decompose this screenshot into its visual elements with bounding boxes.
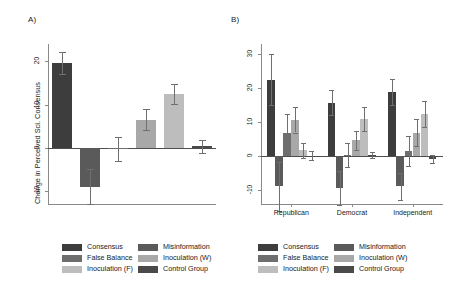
error-bar-cap [293,133,298,134]
legend-swatch-b [334,244,354,251]
error-bar-cap [143,109,150,110]
y-tick-panel-b [258,54,261,55]
error-bar-cap [171,84,178,85]
error-bar [174,84,175,104]
legend-label-b: False Balance [283,254,329,262]
legend-label-a: Consensus [87,243,133,251]
error-bar [364,107,365,132]
y-tick-label-panel-a: 20 [33,51,40,71]
y-tick-panel-a [45,105,48,106]
y-tick-label-panel-a: -10 [33,181,40,201]
legend-swatch-b [258,244,278,251]
legend-swatch-b [258,255,278,262]
error-bar-cap [430,163,435,164]
y-tick-panel-b [258,122,261,123]
legend-panel-a: ConsensusMisinformationFalse BalanceInoc… [62,243,211,273]
error-bar-cap [337,205,342,206]
error-bar-cap [285,152,290,153]
error-bar-cap [414,146,419,147]
error-bar-cap [430,155,435,156]
legend-label-b: Inoculation (W) [359,254,407,262]
error-bar-cap [309,160,314,161]
error-bar [332,90,333,115]
y-tick-panel-a [45,191,48,192]
figure-root: A) Change in Perceived Sci. Consensus 20… [0,0,453,298]
y-tick-label-panel-b: 20 [246,78,253,98]
y-tick-panel-a [45,61,48,62]
error-bar [409,136,410,166]
legend-swatch-a [62,244,82,251]
error-bar-cap [87,204,94,205]
error-bar-cap [59,52,66,53]
error-bar-cap [285,114,290,115]
error-bar [433,155,434,164]
error-bar-cap [390,79,395,80]
error-bar-cap [422,127,427,128]
error-bar-cap [269,105,274,106]
error-bar [372,152,373,159]
legend-swatch-b [334,255,354,262]
zero-line-panel-b [261,156,443,157]
error-bar-cap [354,131,359,132]
error-bar-cap [143,130,150,131]
error-bar [425,101,426,127]
legend-label-a: False Balance [87,254,133,262]
legend-label-b: Control Group [359,265,407,273]
error-bar-cap [362,131,367,132]
legend-label-b: Misinformation [359,243,407,251]
error-bar [312,151,313,161]
error-bar-cap [362,107,367,108]
error-bar-cap [422,101,427,102]
panel-b-letter: B) [231,15,239,24]
x-tick-label-panel-b: Republican [261,209,321,216]
error-bar [417,119,418,147]
legend-label-a: Control Group [163,265,211,273]
y-axis-line-panel-b [261,44,262,204]
error-bar-cap [171,104,178,105]
legend-swatch-b [334,266,354,273]
error-bar [340,171,341,205]
legend-swatch-a [138,266,158,273]
legend-label-a: Inoculation (W) [163,254,211,262]
x-tick-panel-b [352,204,353,207]
legend-swatch-a [62,266,82,273]
legend-label-b: Inoculation (F) [283,265,329,273]
x-tick-label-panel-b: Independent [383,209,443,216]
error-bar-cap [370,152,375,153]
error-bar-cap [406,166,411,167]
plot-area-panel-b: 3020100-10RepublicanDemocratIndependent [261,44,443,204]
error-bar [295,107,296,133]
x-tick-panel-b [291,204,292,207]
y-tick-label-panel-b: -10 [246,180,253,200]
legend-label-b: Consensus [283,243,329,251]
error-bar-cap [269,54,274,55]
error-bar-cap [345,167,350,168]
error-bar-cap [309,151,314,152]
error-bar [202,140,203,154]
error-bar-cap [398,200,403,201]
y-tick-label-panel-b: 0 [246,146,253,166]
legend-panel-b: ConsensusMisinformationFalse BalanceInoc… [258,243,407,273]
error-bar-cap [199,140,206,141]
error-bar-cap [354,150,359,151]
legend-swatch-a [138,255,158,262]
x-tick-panel-b [413,204,414,207]
legend-label-a: Misinformation [163,243,211,251]
error-bar-cap [337,171,342,172]
x-axis-line-panel-a [48,204,216,205]
error-bar [356,131,357,150]
error-bar [90,169,91,204]
error-bar-cap [87,169,94,170]
error-bar [287,114,288,151]
error-bar [401,173,402,200]
error-bar-cap [345,143,350,144]
error-bar [279,162,280,211]
error-bar-cap [301,158,306,159]
bar [52,63,73,148]
error-bar-cap [115,137,122,138]
error-bar-cap [398,173,403,174]
error-bar [118,137,119,161]
error-bar [62,52,63,74]
panel-a-letter: A) [28,15,36,24]
plot-area-panel-a: 20100-10 [48,44,216,204]
